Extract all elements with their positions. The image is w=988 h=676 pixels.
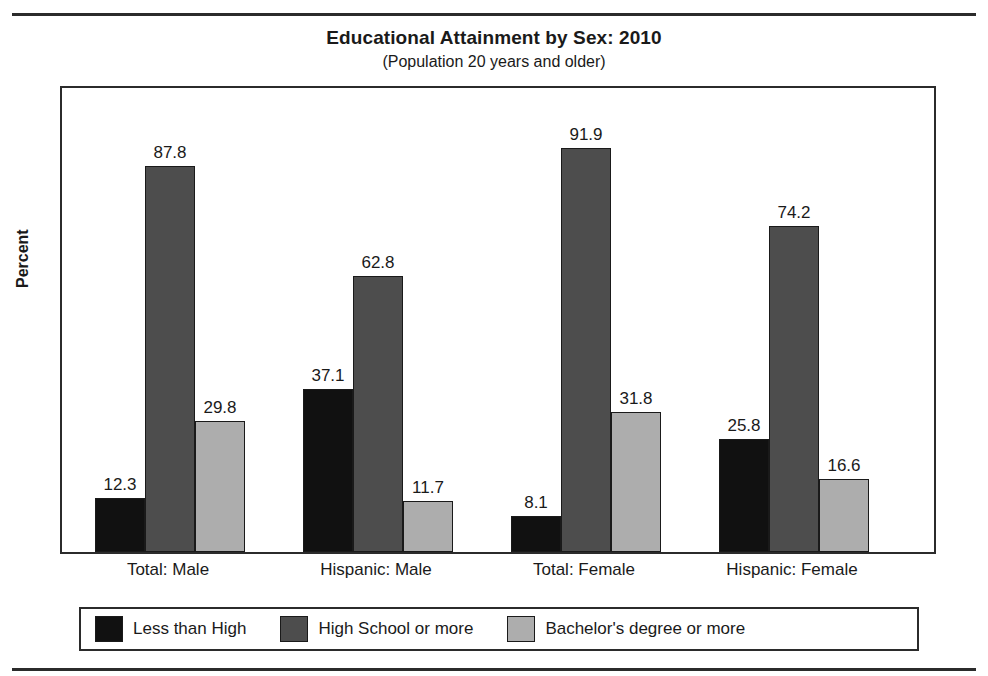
x-axis-label-2: Total: Female — [474, 558, 694, 582]
bar-column: 91.9 — [561, 148, 611, 552]
bar-value-label: 11.7 — [390, 478, 466, 498]
legend-swatch-icon-series1 — [280, 616, 308, 642]
bars-layer: 12.387.829.837.162.811.78.191.931.825.87… — [62, 88, 934, 552]
bar — [611, 412, 661, 552]
bar-column: 16.6 — [819, 479, 869, 552]
bar — [819, 479, 869, 552]
legend-item-bachelors-or-more: Bachelor's degree or more — [507, 616, 745, 642]
bar-group: 37.162.811.7 — [303, 88, 453, 552]
legend-label-series1: High School or more — [318, 619, 473, 639]
bar-column: 11.7 — [403, 501, 453, 552]
bar-value-label: 16.6 — [806, 456, 882, 476]
bar-column: 31.8 — [611, 412, 661, 552]
x-axis-tick-labels: Total: MaleHispanic: MaleTotal: FemaleHi… — [60, 558, 936, 586]
bar-group: 8.191.931.8 — [511, 88, 661, 552]
chart-subtitle: (Population 20 years and older) — [0, 51, 988, 73]
bar-value-label: 31.8 — [598, 389, 674, 409]
bar-value-label: 91.9 — [548, 125, 624, 145]
bar-value-label: 29.8 — [182, 398, 258, 418]
plot-area: 12.387.829.837.162.811.78.191.931.825.87… — [60, 86, 936, 554]
legend-swatch-icon-series2 — [507, 616, 535, 642]
chart-title: Educational Attainment by Sex: 2010 — [0, 26, 988, 50]
bar-column: 25.8 — [719, 439, 769, 552]
x-axis-label-1: Hispanic: Male — [266, 558, 486, 582]
bar-column: 87.8 — [145, 166, 195, 552]
bar-column: 8.1 — [511, 516, 561, 552]
bar — [719, 439, 769, 552]
bar — [403, 501, 453, 552]
legend-swatch-icon-series0 — [95, 616, 123, 642]
bar — [95, 498, 145, 552]
legend-label-series0: Less than High — [133, 619, 246, 639]
bar-column: 74.2 — [769, 226, 819, 552]
bar-group: 12.387.829.8 — [95, 88, 245, 552]
bar-value-label: 62.8 — [340, 253, 416, 273]
bar-column: 62.8 — [353, 276, 403, 552]
legend-label-series2: Bachelor's degree or more — [545, 619, 745, 639]
bottom-divider-rule — [12, 668, 976, 671]
top-divider-rule — [12, 13, 976, 16]
y-axis-label: Percent — [14, 229, 32, 288]
bar — [303, 389, 353, 552]
bar — [561, 148, 611, 552]
bar-value-label: 87.8 — [132, 143, 208, 163]
bar — [195, 421, 245, 552]
legend-item-high-school-or-more: High School or more — [280, 616, 473, 642]
bar-column: 12.3 — [95, 498, 145, 552]
bar-column: 29.8 — [195, 421, 245, 552]
bar — [511, 516, 561, 552]
bar — [353, 276, 403, 552]
bar-value-label: 74.2 — [756, 203, 832, 223]
bar — [769, 226, 819, 552]
legend-item-less-than-high: Less than High — [95, 616, 246, 642]
bar-group: 25.874.216.6 — [719, 88, 869, 552]
bar-column: 37.1 — [303, 389, 353, 552]
bar — [145, 166, 195, 552]
x-axis-label-0: Total: Male — [58, 558, 278, 582]
chart-legend: Less than High High School or more Bache… — [79, 607, 919, 651]
x-axis-label-3: Hispanic: Female — [682, 558, 902, 582]
title-block: Educational Attainment by Sex: 2010 (Pop… — [0, 26, 988, 73]
